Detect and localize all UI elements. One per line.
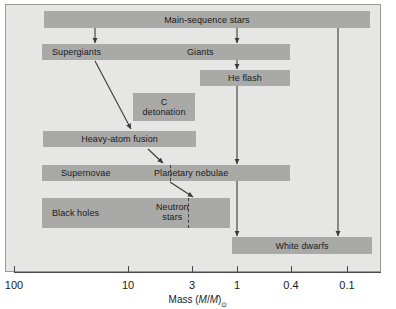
stage-label-he-flash: He flash: [200, 73, 290, 83]
solar-symbol-icon: ⊙: [221, 301, 227, 308]
stage-bar-supergiants-giants: Supergiants Giants: [42, 44, 290, 60]
x-axis-tick-mark-4: [291, 266, 292, 273]
x-axis-tick-label-3: 3: [189, 279, 195, 291]
stage-label-c-detonation: C detonation: [133, 97, 195, 117]
c-detonation-line-2: detonation: [142, 107, 185, 117]
x-axis-line: [14, 272, 381, 273]
neutron-stars-line-2: stars: [162, 212, 182, 222]
stage-label-heavy-atom-fusion: Heavy-atom fusion: [43, 134, 196, 144]
stage-bar-supernovae-planetary-nebulae: Supernovae Planetary nebulae: [42, 165, 290, 181]
x-axis-tick-label-100: 100: [5, 279, 23, 291]
stage-bar-main-sequence-stars: Main-sequence stars: [44, 11, 370, 28]
x-axis-tick-mark-2: [192, 266, 193, 273]
neutron-stars-line-1: Neutron: [156, 202, 189, 212]
stage-bar-white-dwarfs: White dwarfs: [232, 237, 372, 254]
stage-bar-c-detonation: C detonation: [133, 93, 195, 121]
divider-supernovae-planetary-nebulae: [170, 165, 171, 181]
x-axis-tick-label-10: 10: [122, 279, 134, 291]
stage-label-planetary-nebulae: Planetary nebulae: [154, 168, 228, 178]
stage-label-white-dwarfs: White dwarfs: [232, 241, 372, 251]
x-axis-tick-label-1: 1: [234, 279, 240, 291]
axis-title-m-sun: M: [210, 294, 218, 305]
stage-label-black-holes: Black holes: [52, 208, 99, 218]
stage-label-supergiants: Supergiants: [52, 47, 101, 57]
x-axis-tick-label-0.1: 0.1: [339, 279, 354, 291]
stage-label-giants: Giants: [187, 47, 214, 57]
stage-bar-black-holes-neutron-stars: Black holes Neutron stars: [42, 198, 230, 228]
x-axis-title: Mass (M/M)⊙: [0, 294, 396, 308]
x-axis-tick-mark-3: [237, 266, 238, 273]
divider-black-holes-neutron-stars: [188, 198, 189, 228]
x-axis-tick-label-0.4: 0.4: [283, 279, 298, 291]
x-axis-tick-mark-0: [14, 266, 15, 273]
stage-label-main-sequence-stars: Main-sequence stars: [44, 15, 370, 25]
axis-title-prefix: Mass (: [169, 294, 199, 305]
stage-label-supernovae: Supernovae: [61, 168, 111, 178]
c-detonation-line-1: C: [161, 97, 168, 107]
x-axis-tick-mark-5: [347, 266, 348, 273]
stage-bar-heavy-atom-fusion: Heavy-atom fusion: [43, 131, 196, 147]
x-axis-tick-mark-1: [128, 266, 129, 273]
axis-title-m-star: M: [199, 294, 207, 305]
stellar-evolution-diagram: Main-sequence stars Supergiants Giants H…: [0, 0, 396, 309]
stage-bar-he-flash: He flash: [200, 70, 290, 86]
stage-label-neutron-stars: Neutron stars: [156, 202, 189, 222]
